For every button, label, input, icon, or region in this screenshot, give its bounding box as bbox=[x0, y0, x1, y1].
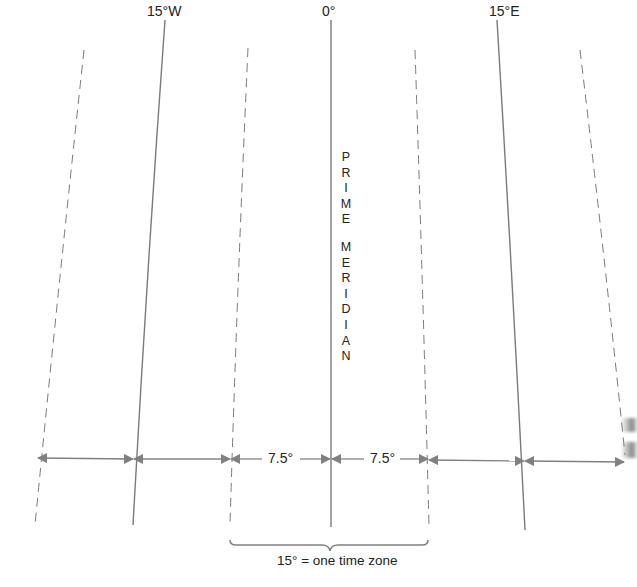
pm-letter: N bbox=[339, 349, 353, 365]
pm-letter: M bbox=[339, 240, 353, 256]
pm-letter: E bbox=[339, 256, 353, 272]
arrow-7-5e-to-15e bbox=[429, 460, 524, 461]
half-zone-label-west: 7.5° bbox=[268, 450, 293, 466]
pm-word-gap bbox=[339, 228, 353, 240]
edge-artifact bbox=[621, 418, 637, 432]
prime-meridian-vertical-label: P R I M E M E R I D I A N bbox=[339, 150, 353, 365]
half-zone-label-east: 7.5° bbox=[370, 450, 395, 466]
pm-letter: I bbox=[339, 318, 353, 334]
pm-letter: R bbox=[339, 166, 353, 182]
arrow-15e-to-far-east bbox=[525, 461, 624, 462]
meridian-15w-line bbox=[133, 20, 165, 525]
pm-letter: I bbox=[339, 181, 353, 197]
zone-boundary-far-east-line bbox=[580, 50, 625, 455]
arrow-far-west-to-15w bbox=[38, 458, 133, 459]
meridian-label-0: 0° bbox=[322, 3, 335, 19]
zone-boundary-far-west-line bbox=[35, 50, 84, 525]
pm-letter: E bbox=[339, 212, 353, 228]
meridian-label-15w: 15°W bbox=[147, 3, 181, 19]
zone-boundary-7-5e-line bbox=[415, 50, 429, 527]
time-zone-brace bbox=[230, 540, 428, 551]
zone-boundary-7-5w-line bbox=[230, 48, 248, 525]
edge-artifact bbox=[621, 442, 637, 458]
meridian-label-15e: 15°E bbox=[489, 3, 520, 19]
time-zone-diagram bbox=[0, 0, 637, 587]
time-zone-caption: 15° = one time zone bbox=[277, 553, 398, 568]
meridian-15e-line bbox=[497, 20, 525, 530]
pm-letter: P bbox=[339, 150, 353, 166]
pm-letter: M bbox=[339, 197, 353, 213]
pm-letter: R bbox=[339, 271, 353, 287]
pm-letter: I bbox=[339, 287, 353, 303]
pm-letter: D bbox=[339, 302, 353, 318]
pm-letter: A bbox=[339, 334, 353, 350]
